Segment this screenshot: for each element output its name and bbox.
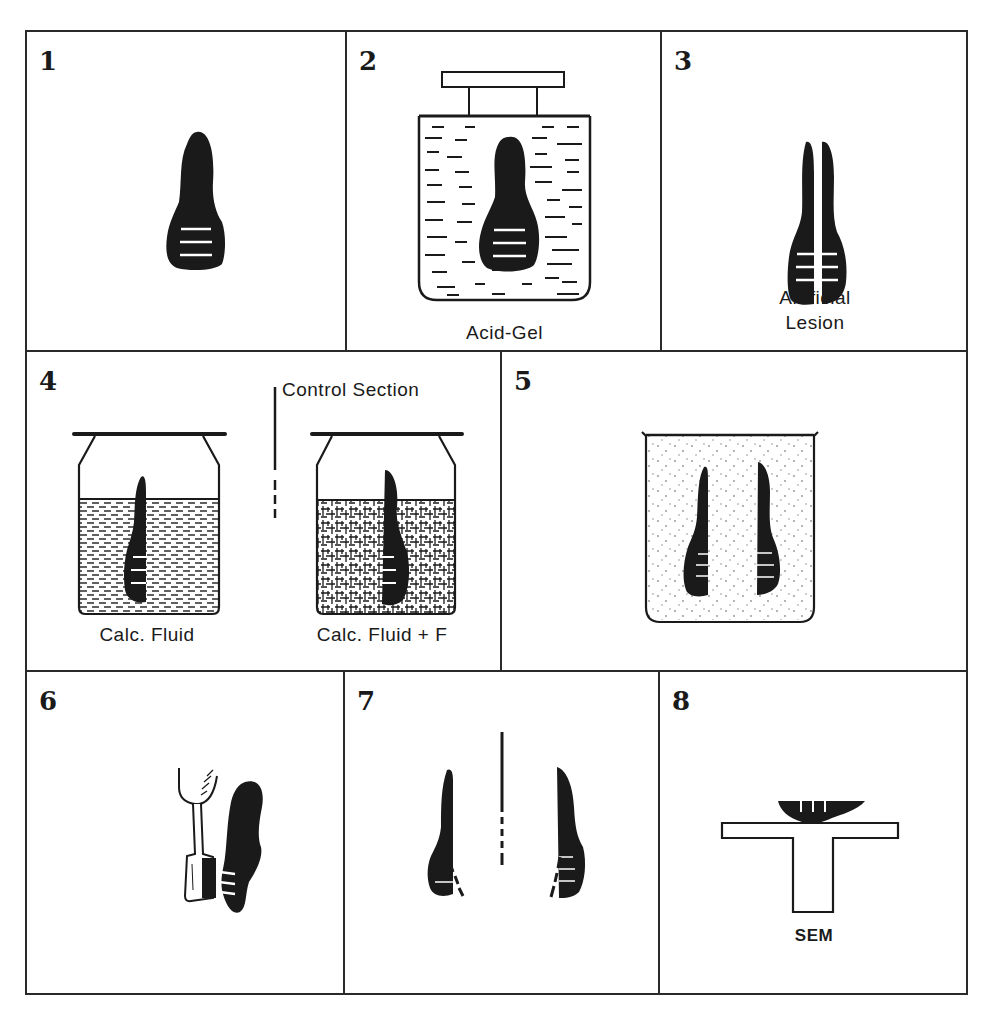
calc-fluid-label: Calc. Fluid: [62, 624, 232, 646]
tooth-icon: [27, 32, 347, 352]
panel-3: 3 Artificial Lesion: [660, 30, 968, 352]
control-section-label: Control Section: [282, 379, 419, 401]
acid-gel-container-icon: [347, 32, 662, 352]
panel-2: 2 Acid-Gel: [345, 30, 662, 352]
panel-8: 8 SEM: [658, 670, 968, 995]
sectioned-halves-icon: [345, 672, 660, 995]
sem-label: SEM: [660, 926, 968, 946]
panel-5: 5: [500, 350, 968, 672]
artificial-lesion-label-line1: Artificial: [662, 287, 968, 309]
toothbrush-brushing-icon: [27, 672, 345, 995]
acid-gel-label: Acid-Gel: [347, 322, 662, 344]
panel-7: 7: [343, 670, 660, 995]
calc-fluid-f-label: Calc. Fluid + F: [302, 624, 462, 646]
panel-6: 6: [25, 670, 345, 995]
beaker-with-halves-icon: [502, 352, 968, 672]
sem-stub-icon: [660, 672, 968, 995]
panel-4: 4 Control Se: [25, 350, 502, 672]
panel-1: 1: [25, 30, 347, 352]
artificial-lesion-label-line2: Lesion: [662, 312, 968, 334]
